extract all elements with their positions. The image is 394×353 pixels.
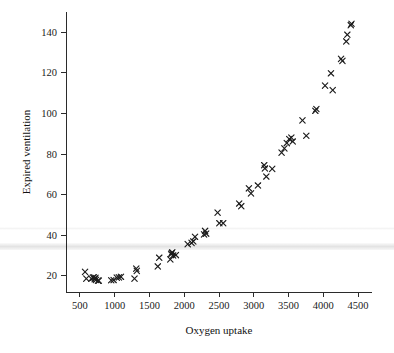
data-point-marker xyxy=(304,133,309,138)
y-tick-label: 120 xyxy=(41,67,57,78)
x-tick-label: 3000 xyxy=(243,300,264,311)
data-point-marker xyxy=(246,186,251,191)
data-point-marker xyxy=(328,71,333,76)
data-point-marker xyxy=(322,83,327,88)
data-point-marker xyxy=(270,166,275,171)
x-tick-label: 3500 xyxy=(278,300,299,311)
y-tick-label: 100 xyxy=(41,108,57,119)
x-tick-label: 4000 xyxy=(313,300,334,311)
axes-group xyxy=(66,12,372,292)
x-tick-label: 500 xyxy=(72,300,88,311)
data-point-marker xyxy=(192,234,197,239)
data-point-marker xyxy=(220,221,225,226)
data-points-group xyxy=(82,21,354,283)
scatter-plot-figure: 50010001500200025003000350040004500 2040… xyxy=(0,0,394,353)
data-point-marker xyxy=(300,118,305,123)
y-tick-label: 20 xyxy=(47,270,58,281)
x-ticks-group: 50010001500200025003000350040004500 xyxy=(72,292,369,311)
data-point-marker xyxy=(248,191,253,196)
data-point-marker xyxy=(344,39,349,44)
y-tick-label: 80 xyxy=(47,149,58,160)
y-tick-label: 40 xyxy=(47,230,58,241)
x-axis-title: Oxygen uptake xyxy=(186,324,253,336)
x-tick-label: 1500 xyxy=(139,300,160,311)
x-tick-label: 2000 xyxy=(174,300,195,311)
plot-canvas: 50010001500200025003000350040004500 2040… xyxy=(0,0,394,353)
data-point-marker xyxy=(156,255,161,260)
data-point-marker xyxy=(255,183,260,188)
y-axis-title: Expired ventilation xyxy=(20,109,32,194)
x-tick-label: 2500 xyxy=(209,300,230,311)
data-point-marker xyxy=(330,87,335,92)
data-point-marker xyxy=(215,210,220,215)
y-tick-label: 140 xyxy=(41,27,57,38)
x-tick-label: 4500 xyxy=(348,300,369,311)
data-point-marker xyxy=(84,276,89,281)
data-point-marker xyxy=(239,203,244,208)
data-point-marker xyxy=(132,276,137,281)
data-point-marker xyxy=(264,174,269,179)
data-point-marker xyxy=(345,32,350,37)
data-point-marker xyxy=(191,239,196,244)
data-point-marker xyxy=(314,106,319,111)
data-point-marker xyxy=(340,58,345,63)
y-tick-label: 60 xyxy=(47,189,58,200)
x-tick-label: 1000 xyxy=(104,300,125,311)
data-point-marker xyxy=(82,269,87,274)
y-ticks-group: 20406080100120140 xyxy=(41,27,66,281)
data-point-marker xyxy=(155,264,160,269)
